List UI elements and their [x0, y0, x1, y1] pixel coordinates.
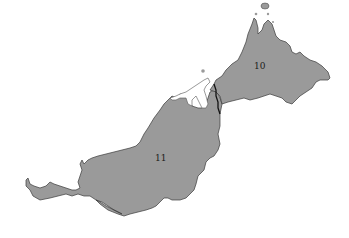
map-canvas — [0, 0, 349, 238]
island-banggi — [261, 3, 269, 9]
region-label-sarawak: 11 — [155, 153, 166, 163]
region-sarawak[interactable] — [26, 90, 222, 216]
island-labuan — [201, 69, 205, 73]
region-sabah[interactable] — [210, 18, 330, 104]
island-small-3 — [272, 21, 274, 23]
island-small-1 — [255, 13, 258, 16]
region-label-sabah: 10 — [254, 61, 265, 71]
island-small-2 — [267, 13, 269, 15]
